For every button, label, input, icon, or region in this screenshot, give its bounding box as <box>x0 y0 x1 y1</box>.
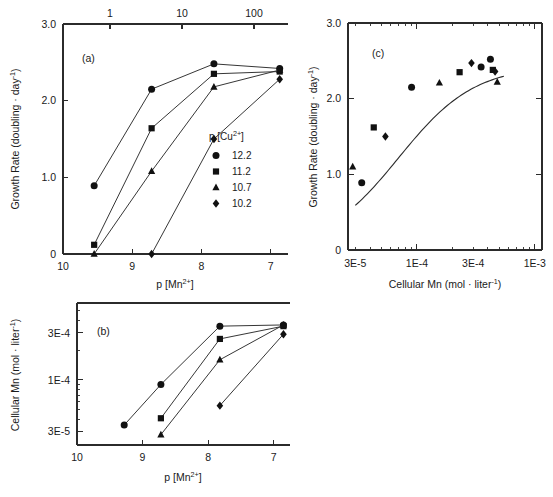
panel-c-point-2 <box>371 124 377 130</box>
panel-a-legend-title: p [Cu2+] <box>209 129 244 142</box>
panel-b-xticklabel-1: 9 <box>140 451 146 463</box>
panel-a-topticklabel-1: 10 <box>176 7 188 19</box>
panel-a-topticklabel-0: 1 <box>107 7 113 19</box>
panel-a-legend-marker-10.2 <box>213 199 220 207</box>
panel-b-xlabel-sup: 2+ <box>191 470 199 479</box>
panel-a-xticklabel-2: 8 <box>199 260 205 272</box>
panel-c-yticklabel-0: 0 <box>335 244 341 256</box>
panel-a-yticklabel-0: 0 <box>50 248 56 260</box>
panel-c-ylabel: Growth Rate (doubling · day-1) <box>306 66 319 207</box>
figure-root: 110100 01.02.03.0 10987 (a) Growth Rate … <box>0 0 553 497</box>
panel-c-xticklabel-3: 1E-3 <box>524 257 546 269</box>
panel-c-bottom-ticklabels: 3E-51E-43E-41E-3 <box>344 257 546 269</box>
panel-a-legend-title-main: p [Cu <box>209 131 233 142</box>
panel-b-yticklabel-2: 3E-4 <box>48 327 70 339</box>
panel-a-point-12.2-2 <box>210 60 217 67</box>
panel-a-yticklabel-2: 2.0 <box>41 94 56 106</box>
panel-b-xticklabel-2: 8 <box>205 451 211 463</box>
panel-b-xlabel-main: p [Mn <box>164 471 190 483</box>
panel-a-legend-label-11.2: 11.2 <box>232 166 251 177</box>
panel-a-legend-title-sup: 2+ <box>233 129 241 138</box>
panel-b-point-12.2-2 <box>216 323 223 330</box>
panel-c-point-1 <box>358 179 365 186</box>
panel-a-topticklabel-2: 100 <box>245 7 263 19</box>
panel-b-yticklabel-1: 1E-4 <box>48 374 70 386</box>
panel-c-left-ticklabels: 01.02.03.0 <box>326 17 341 256</box>
panel-a-left-ticks <box>63 101 68 178</box>
panel-b-xticklabel-3: 7 <box>271 451 277 463</box>
panel-a-bottom-ticklabels: 10987 <box>57 260 274 272</box>
panel-a-yticklabel-3: 3.0 <box>41 18 56 30</box>
panel-c-xlabel-tail: ) <box>498 278 502 290</box>
panel-a-ylabel: Growth Rate (doubling · day-1) <box>8 68 21 209</box>
panel-a-ylabel-main: Growth Rate (doubling · day <box>9 78 21 210</box>
panel-a-point-11.2-0 <box>91 242 97 248</box>
panel-b-ylabel: Cellular Mn (mol · liter-1) <box>8 319 21 432</box>
panel-c-point-6 <box>457 69 463 75</box>
panel-b-point-12.2-1 <box>157 381 164 388</box>
panel-c-xticklabel-0: 3E-5 <box>344 257 366 269</box>
panel-c-xticklabel-1: 1E-4 <box>406 257 428 269</box>
panel-b-ylabel-main: Cellular Mn (mol · liter <box>9 328 21 431</box>
panel-c-point-9 <box>487 56 494 63</box>
panel-a-label: (a) <box>82 52 95 64</box>
panel-c-point-4 <box>408 84 415 91</box>
panel-b-left-ticklabels: 3E-51E-43E-4 <box>48 327 70 438</box>
panel-b-bottom-ticklabels: 10987 <box>71 451 277 463</box>
panel-c-yticklabel-3: 3.0 <box>326 17 341 29</box>
panel-c-growth-rate-vs-cellular-mn: 01.02.03.0 3E-51E-43E-41E-3 (c) Growth R… <box>300 0 553 300</box>
panel-c-point-0 <box>349 163 356 170</box>
panel-a-legend-label-10.2: 10.2 <box>232 198 252 209</box>
panel-c-left-ticks <box>348 99 542 175</box>
panel-a-ylabel-tail: ) <box>9 68 21 72</box>
panel-c-yticklabel-2: 2.0 <box>326 92 341 104</box>
panel-b-point-11.2-1 <box>217 336 223 342</box>
panel-a-series-line-11.2 <box>94 72 280 245</box>
panel-b-xlabel: p [Mn2+] <box>164 470 201 483</box>
panel-c-ylabel-tail: ) <box>307 66 319 70</box>
panel-b-cellular-mn-vs-pMn: 3E-51E-43E-4 10987 (b) Cellular Mn (mol … <box>0 285 300 497</box>
panel-a-legend: p [Cu2+] 12.211.210.710.2 <box>209 129 252 209</box>
panel-b-xlabel-tail: ] <box>199 471 202 483</box>
panel-b-label: (b) <box>97 325 110 337</box>
panel-a-xticklabel-1: 9 <box>129 260 135 272</box>
panel-a-legend-marker-10.7 <box>212 184 219 191</box>
panel-c-bottom-ticks <box>355 244 535 250</box>
panel-c-point-5 <box>436 79 443 86</box>
panel-b-xticklabel-0: 10 <box>71 451 83 463</box>
panel-c-points-group <box>349 56 501 186</box>
panel-b-ylabel-tail: ) <box>9 319 21 323</box>
panel-a-legend-marker-11.2 <box>213 168 219 174</box>
panel-c-point-3 <box>382 132 389 140</box>
panel-c-label: (c) <box>372 47 384 59</box>
panel-a-left-ticklabels: 01.02.03.0 <box>41 18 56 260</box>
panel-a-point-11.2-1 <box>149 125 155 131</box>
panel-a-legend-label-10.7: 10.7 <box>232 182 252 193</box>
panel-c-fit-curve <box>355 76 504 205</box>
panel-a-top-ticks <box>110 24 254 29</box>
panel-a-point-12.2-1 <box>148 86 155 93</box>
panel-c-xlabel-main: Cellular Mn (mol · liter <box>389 278 492 290</box>
panel-c-yticklabel-1: 1.0 <box>326 168 341 180</box>
panel-b-point-11.2-0 <box>158 415 164 421</box>
panel-a-series-line-12.2 <box>94 64 280 186</box>
panel-a-series-line-10.2 <box>152 79 280 254</box>
panel-a-yticklabel-1: 1.0 <box>41 171 56 183</box>
panel-a-point-11.2-2 <box>211 71 217 77</box>
panel-b-left-ticks <box>77 311 83 432</box>
panel-b-series-group <box>121 321 287 437</box>
panel-c-point-8 <box>478 63 485 70</box>
panel-a-legend-label-12.2: 12.2 <box>232 150 252 161</box>
panel-c-xticklabel-2: 3E-4 <box>462 257 484 269</box>
panel-a-point-12.2-0 <box>91 182 98 189</box>
panel-b-yticklabel-0: 3E-5 <box>48 425 70 437</box>
panel-a-xticklabel-0: 10 <box>57 260 69 272</box>
panel-c-xlabel: Cellular Mn (mol · liter-1) <box>389 277 502 290</box>
panel-a-point-10.2-0 <box>148 250 155 258</box>
panel-b-series-line-12.2 <box>124 325 283 425</box>
panel-c-point-7 <box>468 59 475 67</box>
panel-a-legend-entries: 12.211.210.710.2 <box>212 150 252 209</box>
panel-a-legend-title-tail: ] <box>241 131 244 142</box>
svg-text:Growth Rate (doubling · day-1): Growth Rate (doubling · day-1) <box>306 66 319 207</box>
panel-c-top-ticks <box>355 23 535 29</box>
